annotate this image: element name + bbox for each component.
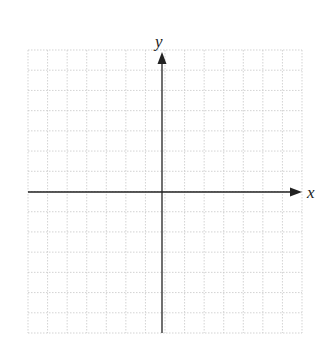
x-axis-arrow-icon [290, 188, 302, 197]
x-axis-label: x [306, 183, 315, 202]
y-axis-label: y [153, 32, 163, 51]
coordinate-plane: x y [0, 0, 332, 348]
